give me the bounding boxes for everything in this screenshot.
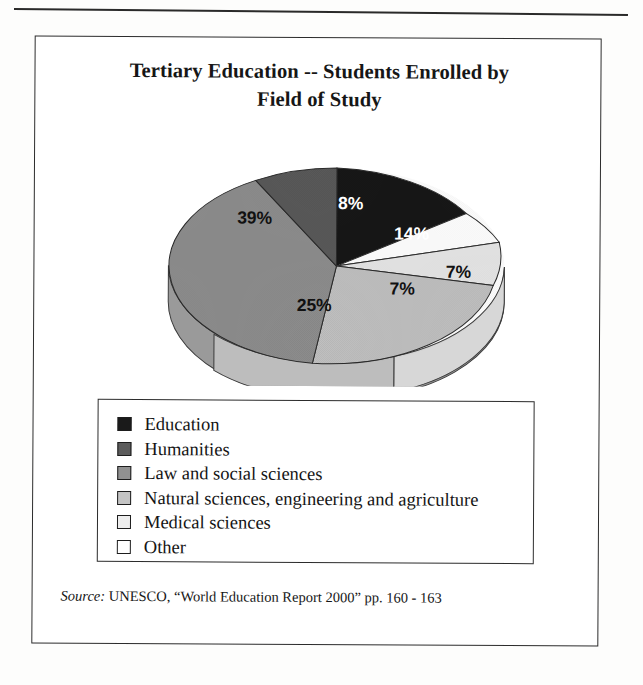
source-text: UNESCO, “World Education Report 2000” pp… (105, 588, 442, 606)
source-citation: Source: UNESCO, “World Education Report … (61, 588, 442, 607)
legend-label-medical-sciences: Medical sciences (144, 513, 271, 532)
legend-label-other: Other (144, 538, 186, 557)
legend-item-other: Other (117, 534, 525, 561)
chart-frame: Tertiary Education -- Students Enrolled … (31, 35, 601, 646)
legend-swatch-education (117, 417, 131, 431)
pie-label-education: 14% (394, 223, 430, 243)
legend-item-natural-sciences: Natural sciences, engineering and agricu… (117, 485, 525, 512)
pie-chart-svg: 14% 7% 7% 25% 39% 8% (162, 145, 511, 387)
source-keyword: Source: (61, 588, 106, 604)
legend-label-law-social-sciences: Law and social sciences (144, 464, 322, 483)
chart-title-line-1: Tertiary Education -- Students Enrolled … (73, 57, 565, 88)
legend-item-education: Education (117, 412, 525, 439)
chart-legend: Education Humanities Law and social scie… (97, 399, 535, 564)
legend-label-natural-sciences: Natural sciences, engineering and agricu… (144, 489, 479, 509)
chart-title: Tertiary Education -- Students Enrolled … (73, 57, 565, 115)
legend-label-humanities: Humanities (144, 440, 229, 459)
page-top-rule (14, 8, 628, 16)
pie-label-medical-sciences: 7% (390, 278, 416, 298)
legend-item-humanities: Humanities (117, 436, 525, 463)
legend-swatch-natural-sciences (117, 491, 131, 505)
pie-label-natural-sciences: 25% (297, 295, 333, 315)
legend-item-medical-sciences: Medical sciences (117, 510, 525, 537)
pie-label-law-social-sciences: 39% (237, 208, 273, 228)
pie-label-other: 7% (446, 262, 472, 282)
legend-label-education: Education (144, 415, 219, 434)
pie-chart: 14% 7% 7% 25% 39% 8% (162, 145, 511, 387)
pie-label-humanities: 8% (338, 193, 364, 213)
chart-title-line-2: Field of Study (73, 85, 565, 116)
legend-swatch-law-social-sciences (117, 466, 131, 480)
scanned-page: Tertiary Education -- Students Enrolled … (0, 0, 643, 685)
legend-swatch-humanities (117, 442, 131, 456)
legend-swatch-medical-sciences (117, 515, 131, 529)
legend-item-law-social-sciences: Law and social sciences (117, 461, 525, 488)
legend-swatch-other (117, 540, 131, 554)
